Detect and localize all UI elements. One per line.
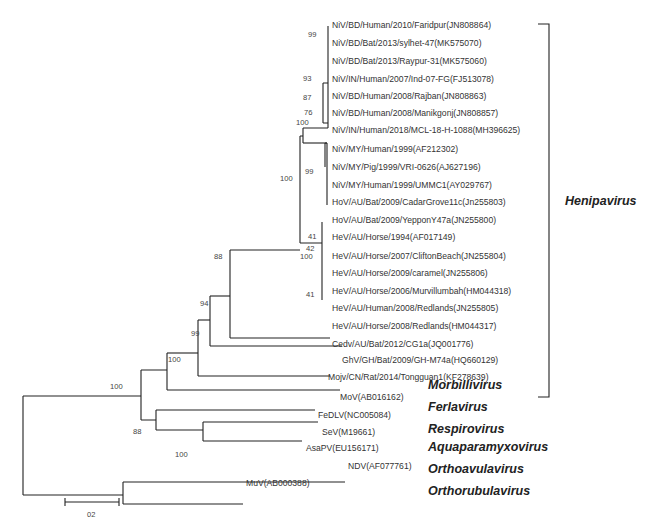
scale-bar: 02 — [65, 498, 119, 519]
genus-label-henipavirus: Henipavirus — [565, 194, 637, 208]
bootstrap-value: 100 — [300, 252, 313, 261]
bootstrap-value: 88 — [133, 427, 141, 436]
leaf-label: NiV/BD/Human/2010/Faridpur(JN808864) — [332, 20, 491, 30]
leaf-label: FeDLV(NC005084) — [318, 410, 391, 420]
genus-label-ferlavirus: Ferlavirus — [428, 400, 488, 414]
leaf-label: NiV/BD/Human/2008/Manikgonj(JN808857) — [332, 108, 498, 118]
genus-label-orthorubulavirus: Orthorubulavirus — [428, 484, 530, 498]
bootstrap-value: 88 — [214, 252, 222, 261]
leaf-label: NiV/IN/Human/2007/Ind-07-FG(FJ513078) — [332, 74, 494, 84]
leaf-label: NiV/BD/Human/2008/Rajban(JN808863) — [332, 91, 486, 101]
bootstrap-value: 99 — [191, 329, 199, 338]
bootstrap-value: 99 — [308, 30, 316, 39]
bootstrap-value: 94 — [200, 299, 208, 308]
bootstrap-value: 100 — [168, 355, 181, 364]
leaf-label: NiV/MY/Pig/1999/VRI-0626(AJ627196) — [332, 162, 481, 172]
leaf-label: NiV/IN/Human/2018/MCL-18-H-1088(MH396625… — [332, 125, 520, 135]
bootstrap-value: 100 — [280, 174, 293, 183]
genus-label-morbillivirus: Morbillivirus — [428, 378, 502, 392]
bootstrap-value: 100 — [175, 450, 188, 459]
leaf-label: HeV/AU/Horse/2007/CliftonBeach(JN255804) — [332, 251, 506, 261]
leaf-label: HeV/AU/Horse/2008/Redlands(HM044317) — [332, 321, 496, 331]
leaf-label: HeV/AU/Horse/2009/caramel(JN255806) — [332, 268, 488, 278]
bootstrap-value: 99 — [305, 167, 313, 176]
leaf-label: HeV/AU/Horse/1994(AF017149) — [332, 232, 455, 242]
scale-bar-label: 02 — [87, 510, 95, 519]
bootstrap-value: 100 — [296, 118, 309, 127]
leaf-label: NiV/MY/Human/1999(AF212302) — [332, 144, 458, 154]
phylogenetic-tree: 02 NiV/BD/Human/2010/Faridpur(JN808864)N… — [0, 0, 650, 528]
leaf-label: Cedv/AU/Bat/2012/CG1a(JQ001776) — [332, 339, 474, 349]
bootstrap-value: 76 — [304, 108, 312, 117]
leaf-label: HeV/AU/Horse/2006/Murvillumbah(HM044318) — [332, 286, 511, 296]
leaf-label: HeV/AU/Human/2008/Redlands(JN255805) — [332, 303, 498, 313]
leaf-label: NiV/MY/Human/1999/UMMC1(AY029767) — [332, 180, 492, 190]
leaf-label: HoV/AU/Bat/2009/YepponY47a(JN255800) — [332, 215, 496, 225]
leaf-label: NiV/BD/Bat/2013/Raypur-31(MK575060) — [332, 56, 487, 66]
bootstrap-value: 100 — [110, 382, 123, 391]
genus-label-respirovirus: Respirovirus — [428, 422, 504, 436]
bootstrap-value: 41 — [306, 290, 314, 299]
leaf-label: MuV(AB000388) — [246, 478, 310, 488]
leaf-label: AsaPV(EU156171) — [306, 443, 379, 453]
leaf-label: MoV(AB016162) — [340, 392, 404, 402]
leaf-label: GhV/GH/Bat/2009/GH-M74a(HQ660129) — [342, 355, 498, 365]
henipavirus-bracket — [538, 24, 549, 397]
leaf-label: NiV/BD/Bat/2013/sylhet-47(MK575070) — [332, 38, 482, 48]
leaf-label: SeV(M19661) — [322, 427, 375, 437]
leaf-labels: NiV/BD/Human/2010/Faridpur(JN808864)NiV/… — [246, 20, 520, 488]
bootstrap-value: 93 — [303, 74, 311, 83]
bootstrap-value: 41 — [308, 232, 316, 241]
genus-label-orthoavulavirus: Orthoavulavirus — [428, 462, 524, 476]
bootstrap-value: 87 — [303, 93, 311, 102]
genus-label-aquaparamyxovirus: Aquaparamyxovirus — [427, 440, 548, 454]
leaf-label: NDV(AF077761) — [348, 461, 412, 471]
leaf-label: HoV/AU/Bat/2009/CadarGrove11c(Jn255803) — [332, 197, 506, 207]
tree-branches — [23, 26, 345, 504]
